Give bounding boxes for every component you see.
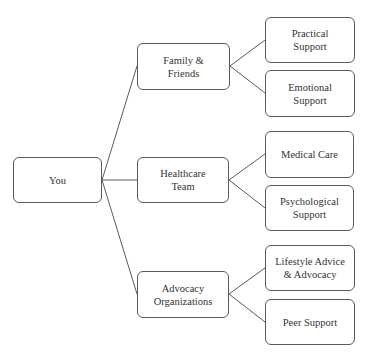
node-emotional-support: Emotional Support	[265, 70, 355, 117]
node-psychological-support: Psychological Support	[265, 185, 354, 231]
edge-you-family	[102, 66, 137, 180]
support-network-diagram: You Family & Friends Healthcare Team Adv…	[0, 0, 370, 354]
edge-family-practical	[230, 40, 265, 66]
edge-advocacy-lifestyle	[229, 268, 265, 294]
edge-healthcare-medical	[229, 154, 265, 180]
edge-you-advocacy	[102, 180, 137, 294]
node-lifestyle-advice-advocacy: Lifestyle Advice & Advocacy	[265, 245, 355, 291]
node-you: You	[13, 157, 102, 203]
node-practical-support: Practical Support	[265, 17, 355, 63]
node-healthcare-team: Healthcare Team	[137, 157, 229, 203]
node-medical-care: Medical Care	[265, 131, 354, 178]
node-peer-support: Peer Support	[265, 299, 355, 345]
edge-healthcare-psychological	[229, 180, 265, 208]
node-family-friends: Family & Friends	[137, 43, 230, 90]
edge-advocacy-peer	[229, 294, 265, 322]
edge-family-emotional	[230, 66, 265, 93]
node-advocacy-organizations: Advocacy Organizations	[137, 271, 229, 318]
